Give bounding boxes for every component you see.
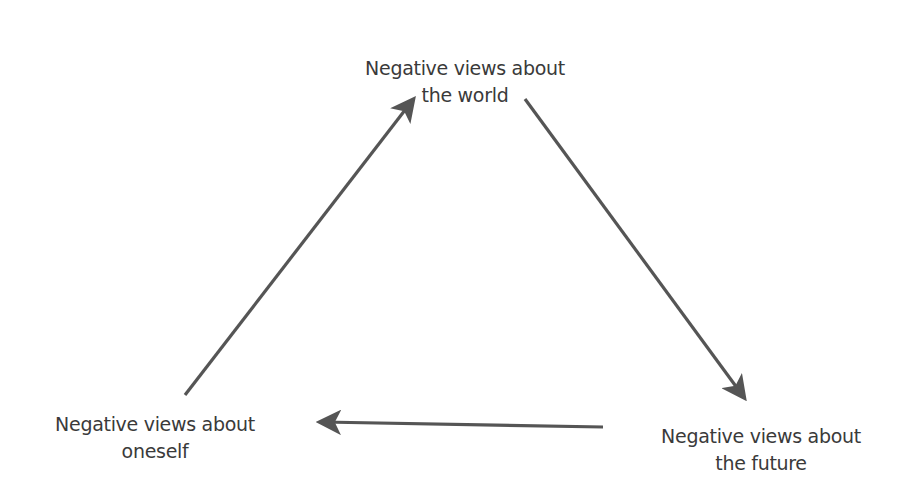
node-world-line-2: the world <box>330 82 600 109</box>
arrow-oneself-to-world <box>185 101 412 395</box>
node-oneself-line-1: Negative views about <box>20 411 290 438</box>
cognitive-triad-diagram: Negative views about the world Negative … <box>0 0 918 493</box>
node-oneself-label: Negative views about oneself <box>20 411 290 465</box>
node-world-label: Negative views about the world <box>330 55 600 109</box>
node-future-line-2: the future <box>626 450 896 477</box>
arrow-future-to-oneself <box>322 422 603 427</box>
node-future-label: Negative views about the future <box>626 423 896 477</box>
arrow-world-to-future <box>525 99 743 396</box>
node-world-line-1: Negative views about <box>330 55 600 82</box>
node-future-line-1: Negative views about <box>626 423 896 450</box>
node-oneself-line-2: oneself <box>20 438 290 465</box>
